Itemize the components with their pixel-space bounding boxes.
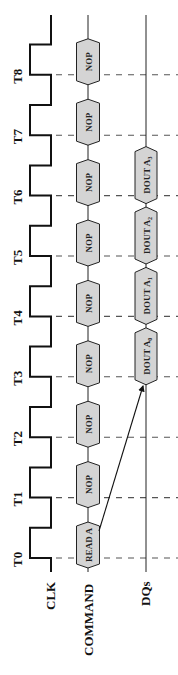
command-box-t7: NOP [77, 99, 100, 145]
command-box-t3: NOP [77, 341, 100, 387]
tick-label-t0: T0 [10, 552, 25, 567]
arrow-line [99, 386, 143, 531]
clk-waveform [30, 15, 51, 572]
command-text: NOP [84, 112, 94, 132]
tick-label-t1: T1 [10, 491, 25, 506]
command-text: NOP [84, 233, 94, 253]
command-text: NOP [84, 293, 94, 313]
command-text: READ A [84, 528, 94, 562]
signal-labels: CLK COMMAND DQs [43, 581, 153, 656]
dout-text: DOUT A3 [142, 157, 153, 194]
command-box-t2: NOP [77, 401, 100, 447]
dout-box-a3: DOUT A3 [135, 147, 157, 204]
dout-text: DOUT A2 [142, 217, 153, 254]
command-box-t4: NOP [77, 280, 100, 326]
clk-label: CLK [43, 581, 58, 610]
timing-diagram: READ ANOPNOPNOPNOPNOPNOPNOPNOP DOUT A0DO… [0, 0, 178, 675]
tick-label-t4: T4 [10, 310, 25, 326]
dout-text: DOUT A1 [142, 277, 153, 314]
command-box-t1: NOP [77, 462, 100, 508]
command-box-t5: NOP [77, 220, 100, 266]
dout-text: DOUT A0 [142, 338, 153, 375]
tick-labels: T0T1T2T3T4T5T6T7T8 [10, 68, 25, 567]
tick-label-t5: T5 [10, 249, 25, 265]
command-text: NOP [84, 173, 94, 193]
tick-label-t7: T7 [10, 129, 25, 145]
tick-label-t2: T2 [10, 431, 25, 446]
command-label: COMMAND [81, 584, 96, 656]
command-boxes: READ ANOPNOPNOPNOPNOPNOPNOPNOP [77, 39, 100, 568]
command-box-t8: NOP [77, 39, 100, 85]
command-text: NOP [84, 475, 94, 495]
tick-dashed-lines [56, 75, 178, 558]
dqs-label: DQs [138, 581, 153, 606]
tick-label-t6: T6 [10, 189, 25, 205]
tick-label-t3: T3 [10, 370, 25, 386]
dout-box-a1: DOUT A1 [135, 267, 157, 324]
command-text: NOP [84, 414, 94, 434]
command-box-t6: NOP [77, 160, 100, 206]
tick-label-t8: T8 [10, 68, 25, 84]
dout-box-a0: DOUT A0 [135, 328, 157, 385]
dout-box-a2: DOUT A2 [135, 207, 157, 264]
read-latency-arrow [99, 386, 143, 531]
command-box-t0: READ A [77, 522, 100, 568]
clock-waveform [30, 15, 51, 572]
command-text: NOP [84, 52, 94, 72]
command-text: NOP [84, 354, 94, 374]
